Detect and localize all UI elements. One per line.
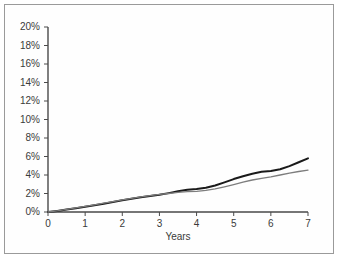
y-axis-tick-label: 20%: [6, 22, 40, 32]
y-axis-tick-label: 18%: [6, 41, 40, 51]
x-axis-tick-label: 2: [114, 219, 130, 229]
y-axis-tick-label: 2%: [6, 189, 40, 199]
y-axis-tick-label: 4%: [6, 170, 40, 180]
y-axis-tick-label: 0%: [6, 207, 40, 217]
y-axis-tick-label: 14%: [6, 78, 40, 88]
y-axis-tick-label: 8%: [6, 133, 40, 143]
axis-spines: [48, 27, 308, 212]
y-axis-tick-label: 6%: [6, 152, 40, 162]
line-chart: 0%2%4%6%8%10%12%14%16%18%20% 01234567 Ye…: [0, 0, 340, 260]
y-axis-tick-label: 12%: [6, 96, 40, 106]
x-axis-tick-label: 0: [40, 219, 56, 229]
x-axis-tick-label: 1: [77, 219, 93, 229]
x-axis-title: Years: [138, 231, 218, 242]
x-axis-tick-label: 5: [226, 219, 242, 229]
x-axis-tick-label: 7: [300, 219, 316, 229]
x-axis-tick-label: 6: [263, 219, 279, 229]
series-line-upper-series: [48, 158, 308, 212]
x-axis-tick-label: 3: [151, 219, 167, 229]
y-axis-tick-label: 16%: [6, 59, 40, 69]
x-axis-tick-label: 4: [189, 219, 205, 229]
y-axis-tick-label: 10%: [6, 115, 40, 125]
